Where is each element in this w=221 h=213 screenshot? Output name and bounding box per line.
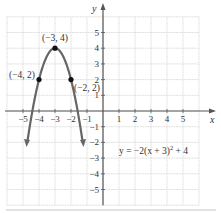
svg-text:−2: −2	[89, 137, 99, 147]
svg-text:(−2, 2): (−2, 2)	[74, 83, 100, 94]
parabola-graph: −5−4−3−2−11234554321−1−2−3−4−5 (−3, 4)(−…	[0, 0, 221, 213]
svg-text:2: 2	[133, 114, 138, 124]
svg-text:4: 4	[165, 114, 170, 124]
svg-text:3: 3	[149, 114, 154, 124]
equation-label: y = −2(x + 3)2 + 4	[119, 144, 188, 157]
svg-text:(−4, 2): (−4, 2)	[9, 70, 35, 81]
y-axis-label: y	[91, 3, 97, 14]
svg-text:5: 5	[95, 28, 100, 38]
svg-text:−5: −5	[89, 185, 99, 195]
svg-text:−1: −1	[89, 122, 99, 132]
axes	[5, 3, 216, 205]
svg-text:−4: −4	[34, 114, 44, 124]
svg-text:−5: −5	[18, 114, 28, 124]
svg-text:−4: −4	[89, 169, 99, 179]
svg-text:4: 4	[95, 43, 100, 53]
svg-text:1: 1	[117, 114, 122, 124]
svg-text:−2: −2	[66, 114, 76, 124]
x-axis-label: x	[209, 114, 215, 125]
bottom-divider	[6, 209, 216, 211]
svg-text:5: 5	[181, 114, 186, 124]
svg-text:−3: −3	[89, 153, 99, 163]
svg-text:(−3, 4): (−3, 4)	[42, 33, 68, 44]
svg-text:−3: −3	[50, 114, 60, 124]
svg-text:3: 3	[95, 59, 100, 69]
